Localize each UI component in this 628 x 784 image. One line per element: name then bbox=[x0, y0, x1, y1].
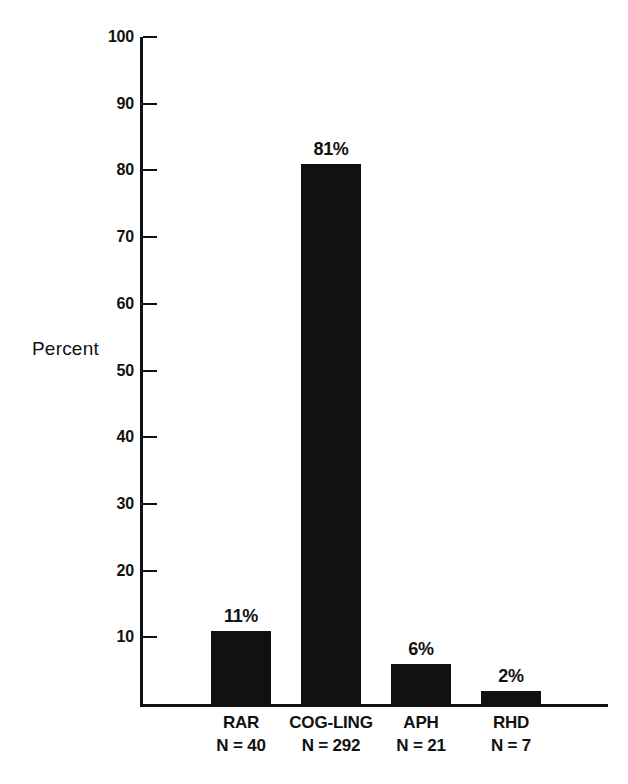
y-axis-tick-mark bbox=[143, 103, 157, 105]
category-label-name: RHD bbox=[451, 712, 571, 735]
y-axis-tick-label-text: 70 bbox=[92, 229, 134, 245]
y-axis-tick-label-text: 60 bbox=[92, 296, 134, 312]
bar-value-label: 2% bbox=[456, 666, 566, 687]
y-axis-tick-label: 30 bbox=[88, 496, 134, 512]
bar-chart-figure: Percent 100908070605040302010 11%81%6%2%… bbox=[0, 0, 628, 784]
y-axis-tick-label: 90 bbox=[88, 96, 134, 112]
y-axis-tick-label-text: 10 bbox=[92, 629, 134, 645]
y-axis-tick-mark bbox=[143, 169, 157, 171]
y-axis-tick-mark bbox=[143, 236, 157, 238]
y-axis-tick-label: 80 bbox=[88, 162, 134, 178]
y-axis-tick-mark bbox=[143, 303, 157, 305]
y-axis-tick-mark bbox=[143, 636, 157, 638]
y-axis-tick-mark bbox=[143, 370, 157, 372]
y-axis-tick-label-text: 30 bbox=[92, 496, 134, 512]
y-axis-line bbox=[140, 37, 143, 707]
y-axis-tick-label-text: 20 bbox=[92, 563, 134, 579]
y-axis-tick-label-text: 100 bbox=[92, 29, 134, 45]
y-axis-tick-mark bbox=[143, 503, 157, 505]
bar bbox=[211, 631, 271, 704]
y-axis-tick-mark bbox=[143, 570, 157, 572]
y-axis-tick-label-text: 90 bbox=[92, 96, 134, 112]
y-axis-title: Percent bbox=[32, 338, 99, 360]
bar bbox=[301, 164, 361, 704]
y-axis-tick-label-text: 50 bbox=[92, 363, 134, 379]
y-axis-tick-mark bbox=[143, 36, 157, 38]
y-axis-tick-label: 100 bbox=[88, 29, 134, 45]
category-label-sample-size: N = 7 bbox=[451, 735, 571, 758]
y-axis-tick-label: 70 bbox=[88, 229, 134, 245]
bar-value-label: 11% bbox=[186, 606, 296, 627]
y-axis-tick-label: 50 bbox=[88, 363, 134, 379]
bar-value-label: 81% bbox=[276, 139, 386, 160]
y-axis-tick-label: 10 bbox=[88, 629, 134, 645]
x-axis-line bbox=[140, 704, 608, 707]
y-axis-tick-label-text: 80 bbox=[92, 162, 134, 178]
bar bbox=[391, 664, 451, 704]
category-label: RHDN = 7 bbox=[451, 712, 571, 758]
y-axis-tick-mark bbox=[143, 436, 157, 438]
bar-value-label: 6% bbox=[366, 639, 476, 660]
bar bbox=[481, 691, 541, 704]
y-axis-tick-label: 40 bbox=[88, 429, 134, 445]
y-axis-tick-label: 20 bbox=[88, 563, 134, 579]
plot-area: Percent 100908070605040302010 11%81%6%2%… bbox=[0, 0, 628, 784]
y-axis-tick-label: 60 bbox=[88, 296, 134, 312]
y-axis-tick-label-text: 40 bbox=[92, 429, 134, 445]
